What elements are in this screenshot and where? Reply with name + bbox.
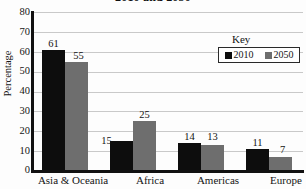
y-tick-30: 30 <box>4 106 30 116</box>
legend-title: Key <box>232 33 250 45</box>
bar-value-americas-2010: 14 <box>177 131 202 142</box>
bar-group-americas: 14 13 <box>178 12 224 171</box>
legend-swatch-2050-icon <box>265 52 272 59</box>
bar-asia-2050 <box>65 62 88 171</box>
bar-asia-2010 <box>42 50 65 171</box>
bar-europe-2050 <box>269 157 292 171</box>
bar-africa-2050 <box>133 121 156 171</box>
bar-europe-2010 <box>246 149 269 171</box>
bar-value-europe-2050: 7 <box>270 144 295 155</box>
chart-title: 2010 and 2050 <box>0 0 306 4</box>
legend-label-2010: 2010 <box>234 50 254 60</box>
y-tick-60: 60 <box>4 47 30 57</box>
y-axis-line <box>31 11 34 173</box>
bar-americas-2010 <box>178 143 201 171</box>
y-tick-80: 80 <box>4 7 30 17</box>
y-tick-40: 40 <box>4 86 30 96</box>
bar-value-americas-2050: 13 <box>200 131 225 142</box>
bar-value-africa-2050: 25 <box>132 109 157 120</box>
bar-chart: 2010 and 2050 Percentage 80 70 60 50 40 … <box>0 0 306 189</box>
y-tick-50: 50 <box>4 66 30 76</box>
y-tick-10: 10 <box>4 146 30 156</box>
bar-value-europe-2010: 11 <box>245 137 270 148</box>
bar-group-europe: 11 7 <box>246 12 292 171</box>
legend-box: 2010 2050 <box>218 47 300 63</box>
x-axis-line <box>31 170 304 173</box>
legend-swatch-2010-icon <box>225 52 232 59</box>
y-axis-tick-labels: 80 70 60 50 40 30 20 10 0 <box>0 0 30 189</box>
bar-value-africa-2010: 15 <box>94 135 119 146</box>
bar-value-asia-2010: 61 <box>41 38 66 49</box>
y-tick-20: 20 <box>4 126 30 136</box>
x-category-europe: Europe <box>221 174 306 187</box>
legend-label-2050: 2050 <box>274 50 294 60</box>
legend-entry-2050: 2050 <box>265 50 294 60</box>
bar-americas-2050 <box>201 145 224 171</box>
bar-group-asia-oceania: 61 55 <box>42 12 88 171</box>
bar-value-asia-2050: 55 <box>66 50 91 61</box>
legend-entry-2010: 2010 <box>225 50 254 60</box>
y-tick-70: 70 <box>4 27 30 37</box>
bar-group-africa: 15 25 <box>110 12 156 171</box>
plot-area: 61 55 15 25 14 13 11 7 <box>33 12 303 171</box>
